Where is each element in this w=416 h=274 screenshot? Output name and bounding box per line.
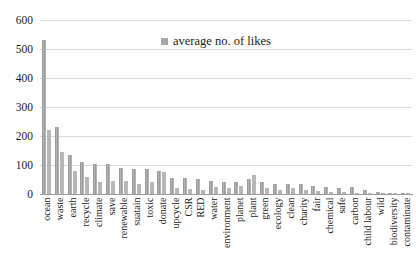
bar-CSR-s1 xyxy=(183,178,187,194)
x-label-charity: charity xyxy=(297,197,308,271)
bar-renewable-s2 xyxy=(124,181,128,194)
bar-chart: average no. of likes 0100200300400500600… xyxy=(0,0,416,274)
gridline-200 xyxy=(40,136,412,137)
x-label-green: green xyxy=(259,197,270,271)
x-label-earth: earth xyxy=(67,197,78,271)
bar-donate-s1 xyxy=(157,171,161,194)
x-label-fair: fair xyxy=(310,197,321,271)
y-tick-label-200: 200 xyxy=(0,130,33,143)
x-label-chemical: chemical xyxy=(323,197,334,271)
x-label-save: save xyxy=(105,197,116,271)
bar-water-s2 xyxy=(214,187,218,194)
y-tick-label-0: 0 xyxy=(0,188,33,201)
y-tick-label-100: 100 xyxy=(0,159,33,172)
bar-chemical-s1 xyxy=(324,187,328,194)
bar-waste-s1 xyxy=(55,127,59,194)
x-label-CSR: CSR xyxy=(182,197,193,271)
bar-donate-s2 xyxy=(162,172,166,194)
bar-clean-s1 xyxy=(286,184,290,194)
bar-plant-s1 xyxy=(247,179,251,194)
bar-save-s1 xyxy=(106,164,110,194)
y-tick-label-500: 500 xyxy=(0,43,33,56)
x-label-suatain: suatain xyxy=(131,197,142,271)
bar-plant-s2 xyxy=(252,175,256,194)
bar-planet-s1 xyxy=(234,182,238,194)
bar-RED-s1 xyxy=(196,179,200,194)
bar-water-s1 xyxy=(209,181,213,194)
x-label-upcycle: upcycle xyxy=(169,197,180,271)
bar-toxic-s1 xyxy=(145,169,149,194)
bar-waste-s2 xyxy=(60,152,64,194)
x-axis-line xyxy=(40,194,413,195)
x-label-environment: environment xyxy=(221,197,232,271)
bar-recycle-s2 xyxy=(85,177,89,194)
x-label-recycle: recycle xyxy=(79,197,90,271)
x-label-contaminate: contaminate xyxy=(400,197,411,271)
x-label-waste: waste xyxy=(54,197,65,271)
x-label-donate: donate xyxy=(156,197,167,271)
bar-ecology-s1 xyxy=(273,184,277,194)
plot-area xyxy=(40,20,412,194)
gridline-500 xyxy=(40,49,412,50)
y-tick-label-400: 400 xyxy=(0,72,33,85)
bar-climate-s1 xyxy=(93,164,97,194)
bar-green-s1 xyxy=(260,182,264,194)
x-label-RED: RED xyxy=(195,197,206,271)
x-label-child-labour: child labour xyxy=(362,197,373,271)
bar-earth-s1 xyxy=(68,155,72,194)
bar-toxic-s2 xyxy=(150,182,154,194)
x-label-wild: wild xyxy=(374,197,385,271)
x-label-water: water xyxy=(208,197,219,271)
bar-ocean-s2 xyxy=(47,130,51,194)
gridline-300 xyxy=(40,107,412,108)
bar-earth-s2 xyxy=(73,171,77,194)
x-label-ecology: ecology xyxy=(272,197,283,271)
x-label-clean: clean xyxy=(285,197,296,271)
y-tick-label-300: 300 xyxy=(0,101,33,114)
x-label-planet: planet xyxy=(233,197,244,271)
x-label-toxic: toxic xyxy=(144,197,155,271)
bar-charity-s1 xyxy=(299,184,303,194)
gridline-600 xyxy=(40,20,412,21)
x-label-biodiversity: biodiversity xyxy=(387,197,398,271)
bar-planet-s2 xyxy=(239,186,243,194)
bar-save-s2 xyxy=(111,181,115,194)
bar-suatain-s1 xyxy=(132,169,136,194)
gridline-400 xyxy=(40,78,412,79)
x-label-carbon: carbon xyxy=(349,197,360,271)
x-label-ocean: ocean xyxy=(41,197,52,271)
bar-suatain-s2 xyxy=(137,184,141,194)
bar-upcycle-s1 xyxy=(170,178,174,194)
bar-ocean-s1 xyxy=(42,40,46,194)
bar-renewable-s1 xyxy=(119,168,123,194)
x-label-renewable: renewable xyxy=(118,197,129,271)
x-label-safe: safe xyxy=(336,197,347,271)
bar-recycle-s1 xyxy=(80,162,84,194)
bar-carbon-s1 xyxy=(350,187,354,194)
x-label-plant: plant xyxy=(246,197,257,271)
bar-environment-s1 xyxy=(222,182,226,194)
y-tick-label-600: 600 xyxy=(0,14,33,27)
bar-fair-s1 xyxy=(311,186,315,194)
x-label-climate: climate xyxy=(92,197,103,271)
bar-climate-s2 xyxy=(98,182,102,194)
